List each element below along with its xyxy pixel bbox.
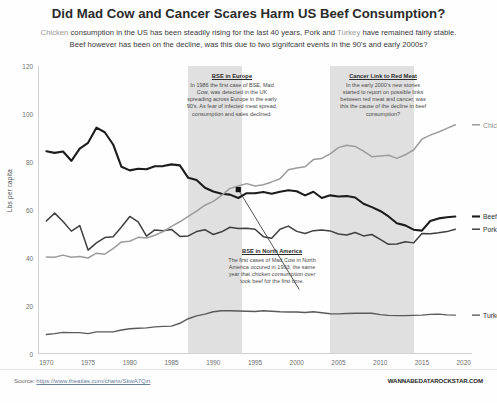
series-label-pork: Pork: [483, 226, 497, 233]
annotation-heading: BSE in North America: [226, 248, 318, 255]
brand-watermark: WANNABEDATAROCKSTAR.COM: [388, 377, 483, 384]
series-line-beef: [46, 128, 455, 231]
series-label-turkey: Turkey: [483, 312, 497, 319]
series-line-turkey: [46, 311, 455, 335]
x-tick-2020: 2020: [457, 359, 471, 366]
x-tick-1990: 1990: [206, 359, 220, 366]
y-tick-20: 20: [26, 303, 33, 310]
annotation-bse-north-america: BSE in North America The first cases of …: [226, 248, 318, 286]
x-tick-1995: 1995: [248, 359, 262, 366]
series-label-beef: Beef: [483, 213, 497, 220]
annotation-heading: Cancer Link to Red Meat: [337, 73, 429, 80]
source-link[interactable]: https://www.theatlas.com/charts/SkwA7Qzt: [36, 378, 150, 384]
x-tick-1985: 1985: [164, 359, 178, 366]
y-tick-0: 0: [29, 351, 33, 358]
source-label: Source:: [14, 378, 36, 384]
subtitle-text-b: have remained fairly stable.: [360, 28, 456, 37]
footer-divider: [0, 369, 497, 370]
annotation-body: In 1986 the first case of BSE, Mad Cow, …: [187, 82, 278, 117]
x-tick-2010: 2010: [373, 359, 387, 366]
y-tick-60: 60: [26, 207, 33, 214]
subtitle-line-2: Beef however has been on the decline, wa…: [70, 40, 428, 49]
page-subtitle: Chicken consumption in the US has been s…: [24, 27, 473, 50]
crossover-marker: [236, 187, 241, 192]
subtitle-turkey-highlight: Turkey: [337, 28, 360, 37]
source-note: Source: https://www.theatlas.com/charts/…: [14, 378, 150, 384]
y-tick-120: 120: [22, 63, 33, 70]
x-tick-2015: 2015: [415, 359, 429, 366]
annotation-body: The first cases of Mad Cow in North Amer…: [228, 257, 315, 285]
series-line-chicken: [46, 125, 455, 258]
y-tick-100: 100: [22, 111, 33, 118]
series-line-pork: [46, 213, 455, 250]
x-tick-2000: 2000: [290, 359, 304, 366]
annotation-heading: BSE in Europe: [186, 73, 278, 80]
subtitle-text-a: consumption in the US has been steadily …: [68, 28, 337, 37]
annotation-cancer-link: Cancer Link to Red Meat In the early 200…: [337, 73, 429, 118]
x-tick-2005: 2005: [331, 359, 345, 366]
x-tick-1980: 1980: [123, 359, 137, 366]
y-axis-title: Lbs per capita: [6, 169, 13, 212]
y-tick-40: 40: [26, 255, 33, 262]
y-tick-80: 80: [26, 159, 33, 166]
series-label-chicken: Chicken: [483, 121, 497, 128]
x-tick-1975: 1975: [81, 359, 95, 366]
annotation-body: In the early 2000's new stories started …: [340, 82, 426, 117]
annotation-bse-europe: BSE in Europe In 1986 the first case of …: [186, 73, 278, 118]
page-title: Did Mad Cow and Cancer Scares Harm US Be…: [0, 6, 497, 21]
chart-page: Did Mad Cow and Cancer Scares Harm US Be…: [0, 0, 497, 403]
subtitle-chicken-highlight: Chicken: [41, 28, 69, 37]
x-tick-1970: 1970: [39, 359, 53, 366]
